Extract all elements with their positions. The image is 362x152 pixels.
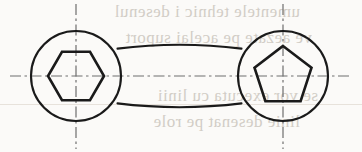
technical-drawing (0, 0, 362, 152)
connecting-bar-bottom-edge (118, 103, 242, 107)
connecting-bar-top-edge (118, 45, 242, 49)
centerlines-group (10, 4, 349, 149)
scanned-figure-page: umentele tehnic i desenul ve aezate pe a… (0, 0, 362, 152)
socket-group (48, 46, 312, 101)
